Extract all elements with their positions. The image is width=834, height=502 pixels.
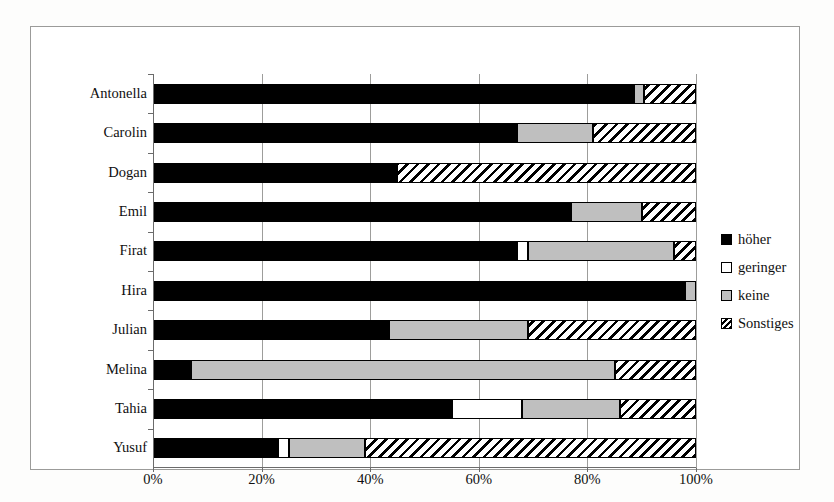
bar-row bbox=[153, 399, 696, 419]
bar-segment-sonstiges bbox=[528, 320, 696, 340]
gridline bbox=[696, 74, 697, 468]
bar-segment-sonstiges bbox=[674, 241, 696, 261]
y-axis-category-label: Julian bbox=[112, 322, 147, 337]
y-axis-tick bbox=[148, 113, 153, 114]
bar-segment-hoeher bbox=[153, 163, 397, 183]
y-axis-tick bbox=[148, 429, 153, 430]
legend-label: Sonstiges bbox=[738, 316, 794, 331]
x-axis-tick-label: 0% bbox=[143, 471, 162, 488]
bar-segment-geringer bbox=[278, 438, 289, 458]
bar-segment-keine bbox=[191, 360, 615, 380]
y-axis-tick bbox=[148, 271, 153, 272]
y-axis-category-label: Tahia bbox=[115, 401, 147, 416]
legend-label: geringer bbox=[738, 260, 786, 275]
y-axis-category-label: Yusuf bbox=[113, 440, 147, 455]
x-axis-tick-label: 40% bbox=[357, 471, 384, 488]
y-axis-category-label: Antonella bbox=[90, 86, 147, 101]
legend-item: geringer bbox=[721, 253, 831, 281]
bar-segment-sonstiges bbox=[593, 123, 696, 143]
bar-segment-hoeher bbox=[153, 438, 278, 458]
plot-area bbox=[153, 74, 696, 468]
bar-segment-keine bbox=[289, 438, 365, 458]
bar-segment-keine bbox=[528, 241, 675, 261]
bar-segment-sonstiges bbox=[620, 399, 696, 419]
bar-segment-sonstiges bbox=[644, 84, 696, 104]
y-axis-category-label: Carolin bbox=[104, 125, 148, 140]
bar-segment-hoeher bbox=[153, 360, 191, 380]
x-axis-tick-label: 100% bbox=[679, 471, 713, 488]
y-axis-tick bbox=[148, 389, 153, 390]
legend-label: keine bbox=[738, 288, 769, 303]
bar-segment-keine bbox=[634, 84, 645, 104]
legend-swatch-icon bbox=[721, 318, 732, 329]
bar-segment-keine bbox=[389, 320, 527, 340]
bar-segment-geringer bbox=[452, 399, 523, 419]
chart-page: AntonellaCarolinDoganEmilFiratHiraJulian… bbox=[0, 0, 834, 502]
legend-swatch-icon bbox=[721, 234, 732, 245]
legend-swatch-icon bbox=[721, 290, 732, 301]
bar-segment-hoeher bbox=[153, 123, 517, 143]
y-axis-category-label: Dogan bbox=[108, 165, 147, 180]
bar-segment-hoeher bbox=[153, 84, 634, 104]
x-axis-tick-label: 20% bbox=[248, 471, 275, 488]
legend: höhergeringerkeineSonstiges bbox=[721, 225, 831, 337]
y-axis-tick bbox=[148, 232, 153, 233]
bar-row bbox=[153, 438, 696, 458]
x-axis-line bbox=[153, 467, 696, 468]
y-axis-category-label: Firat bbox=[120, 243, 147, 258]
bar-row bbox=[153, 241, 696, 261]
y-axis-category-label: Hira bbox=[121, 283, 147, 298]
x-axis-tick-labels: 0%20%40%60%80%100% bbox=[153, 471, 696, 495]
bar-row bbox=[153, 84, 696, 104]
bar-segment-sonstiges bbox=[615, 360, 696, 380]
y-axis-category-labels: AntonellaCarolinDoganEmilFiratHiraJulian… bbox=[61, 74, 147, 468]
bar-segment-hoeher bbox=[153, 202, 571, 222]
bar-row bbox=[153, 360, 696, 380]
chart-frame: AntonellaCarolinDoganEmilFiratHiraJulian… bbox=[30, 26, 800, 470]
y-axis-tick bbox=[148, 153, 153, 154]
bar-row bbox=[153, 281, 696, 301]
bar-segment-geringer bbox=[517, 241, 528, 261]
legend-label: höher bbox=[738, 232, 771, 247]
y-axis-tick bbox=[148, 74, 153, 75]
bar-segment-hoeher bbox=[153, 320, 389, 340]
x-axis-tick-label: 80% bbox=[574, 471, 601, 488]
bar-row bbox=[153, 123, 696, 143]
y-axis-tick bbox=[148, 192, 153, 193]
y-axis-line bbox=[153, 74, 154, 468]
bar-row bbox=[153, 202, 696, 222]
bar-segment-keine bbox=[571, 202, 642, 222]
y-axis-category-label: Melina bbox=[106, 362, 147, 377]
bar-segment-keine bbox=[517, 123, 593, 143]
bar-segment-sonstiges bbox=[365, 438, 696, 458]
bar-segment-sonstiges bbox=[397, 163, 696, 183]
bar-segment-keine bbox=[522, 399, 620, 419]
bar-row bbox=[153, 320, 696, 340]
legend-item: keine bbox=[721, 281, 831, 309]
y-axis-tick bbox=[148, 350, 153, 351]
bar-segment-sonstiges bbox=[642, 202, 696, 222]
bar-segment-hoeher bbox=[153, 241, 517, 261]
x-axis-tick-label: 60% bbox=[466, 471, 493, 488]
bar-segment-keine bbox=[685, 281, 696, 301]
bar-segment-hoeher bbox=[153, 399, 452, 419]
legend-swatch-icon bbox=[721, 262, 732, 273]
bar-segment-hoeher bbox=[153, 281, 685, 301]
y-axis-category-label: Emil bbox=[119, 204, 147, 219]
legend-item: höher bbox=[721, 225, 831, 253]
legend-item: Sonstiges bbox=[721, 309, 831, 337]
bar-row bbox=[153, 163, 696, 183]
y-axis-tick bbox=[148, 310, 153, 311]
